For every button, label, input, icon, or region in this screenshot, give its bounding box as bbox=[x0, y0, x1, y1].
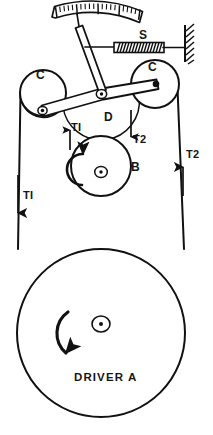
label-tension-tight-lower: T2 bbox=[186, 149, 199, 160]
label-tension-slack-upper: TI bbox=[71, 122, 81, 133]
label-idler-left: C bbox=[36, 69, 45, 81]
label-tension-slack-lower: TI bbox=[23, 190, 33, 201]
driver-a-rim bbox=[17, 249, 185, 417]
pivot-d-center-dot bbox=[100, 92, 103, 95]
label-driver-a: DRIVER A bbox=[74, 372, 137, 384]
diagram-canvas: S C C D B TI T2 TI T2 DRIVER A bbox=[0, 0, 213, 435]
idler-left-pin-dot bbox=[41, 109, 45, 113]
label-tension-tight-upper: T2 bbox=[133, 134, 146, 145]
fixed-wall-hatching bbox=[186, 24, 194, 64]
pulley-b-center-dot bbox=[99, 170, 102, 173]
label-pivot-d: D bbox=[104, 111, 113, 123]
mechanism-drawing bbox=[0, 0, 213, 435]
label-pulley-b: B bbox=[131, 161, 140, 173]
pointer-needle bbox=[77, 14, 79, 27]
label-spring: S bbox=[139, 29, 147, 41]
driver-pulley-a bbox=[17, 249, 185, 417]
idler-right-pin bbox=[153, 81, 160, 88]
graduated-scale bbox=[52, 1, 143, 22]
belt-left-run bbox=[18, 93, 21, 249]
pulley-b bbox=[67, 136, 131, 196]
label-idler-right: C bbox=[148, 61, 157, 73]
driver-a-center-dot bbox=[99, 322, 103, 326]
scale-band bbox=[52, 1, 143, 22]
lever-vertical-arm bbox=[76, 26, 107, 93]
